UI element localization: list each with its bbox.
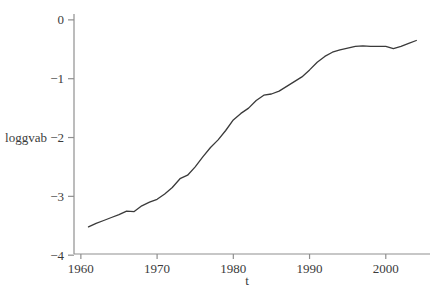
x-tick-label: 2000 (373, 261, 399, 276)
x-tick-label: 1990 (297, 261, 323, 276)
y-tick-label: −4 (50, 248, 64, 263)
x-tick-label: 1960 (68, 261, 94, 276)
x-axis-label: t (245, 273, 249, 288)
figure: 0−1−2−3−419601970198019902000 loggvab t (0, 0, 441, 301)
line-chart: 0−1−2−3−419601970198019902000 loggvab t (0, 0, 441, 301)
y-tick-label: −2 (50, 130, 64, 145)
y-tick-label: −1 (50, 71, 64, 86)
y-axis-label: loggvab (5, 130, 47, 145)
y-tick-label: 0 (58, 12, 65, 27)
tick-marks (68, 20, 386, 259)
tick-labels: 0−1−2−3−419601970198019902000 (50, 12, 399, 276)
x-tick-label: 1970 (144, 261, 170, 276)
x-tick-label: 1980 (220, 261, 246, 276)
axes (74, 14, 430, 254)
data-series-line (89, 41, 417, 227)
y-tick-label: −3 (50, 189, 64, 204)
